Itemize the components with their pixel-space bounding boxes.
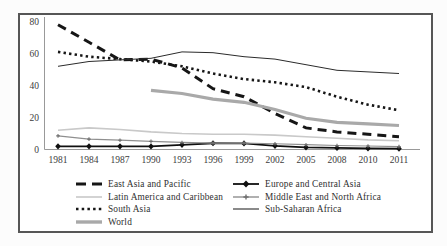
legend-label: East Asia and Pacific xyxy=(108,179,191,189)
legend-item-south-asia: South Asia xyxy=(75,204,232,214)
series-line-world xyxy=(151,90,399,125)
legend-label: Latin America and Caribbean xyxy=(108,192,223,202)
legend-label: Sub-Saharan Africa xyxy=(265,204,342,214)
series-marker-europe-and-central-asia xyxy=(117,143,123,149)
series-marker-middle-east-and-north-africa xyxy=(149,140,153,144)
diamond-marker-line-sample-icon xyxy=(232,179,260,189)
light-gray-line-sample-icon xyxy=(75,192,103,202)
legend-label: South Asia xyxy=(108,204,151,214)
thick-gray-line-sample-icon xyxy=(75,217,103,227)
series-marker-europe-and-central-asia xyxy=(86,143,92,149)
series-line-east-asia-and-pacific xyxy=(58,25,399,137)
x-tick-label: 1984 xyxy=(80,155,99,165)
x-tick-label: 2011 xyxy=(390,155,409,165)
series-line-middle-east-and-north-africa xyxy=(58,136,399,147)
dashed-line-sample-icon xyxy=(75,179,103,189)
x-tick-label: 1981 xyxy=(49,155,68,165)
x-tick-label: 1999 xyxy=(235,155,254,165)
series-line-latin-america-and-caribbean xyxy=(58,128,399,141)
plus-marker-line-sample-icon xyxy=(232,192,260,202)
legend-item-east-asia-and-pacific: East Asia and Pacific xyxy=(75,179,232,189)
x-tick-label: 2010 xyxy=(359,155,378,165)
y-tick-label: 80 xyxy=(30,17,40,27)
legend-label: World xyxy=(108,217,132,227)
y-tick-label: 40 xyxy=(30,81,40,91)
dotted-line-sample-icon xyxy=(75,204,103,214)
y-tick-label: 0 xyxy=(34,145,39,155)
x-tick-label: 1990 xyxy=(142,155,161,165)
x-tick-label: 2002 xyxy=(266,155,285,165)
series-marker-middle-east-and-north-africa xyxy=(87,137,91,141)
legend-item-latin-america-and-caribbean: Latin America and Caribbean xyxy=(75,192,232,202)
series-marker-europe-and-central-asia xyxy=(148,143,154,149)
x-tick-label: 2008 xyxy=(328,155,347,165)
legend-item-world: World xyxy=(75,217,232,227)
legend-label: Middle East and North Africa xyxy=(265,192,381,202)
y-tick-label: 60 xyxy=(30,49,40,59)
x-tick-label: 1996 xyxy=(204,155,223,165)
x-tick-label: 1987 xyxy=(111,155,130,165)
chart-legend: East Asia and Pacific Europe and Central… xyxy=(75,178,415,228)
thin-black-line-sample-icon xyxy=(232,204,260,214)
series-marker-europe-and-central-asia xyxy=(55,143,61,149)
series-line-sub-saharan-africa xyxy=(58,52,399,74)
y-tick-label: 20 xyxy=(30,113,40,123)
series-marker-middle-east-and-north-africa xyxy=(118,138,122,142)
legend-label: Europe and Central Asia xyxy=(265,179,361,189)
x-tick-label: 2005 xyxy=(297,155,316,165)
legend-item-europe-and-central-asia: Europe and Central Asia xyxy=(232,179,412,189)
legend-item-sub-saharan-africa: Sub-Saharan Africa xyxy=(232,204,412,214)
series-marker-middle-east-and-north-africa xyxy=(56,134,60,138)
x-tick-label: 1993 xyxy=(173,155,192,165)
legend-item-middle-east-and-north-africa: Middle East and North Africa xyxy=(232,192,412,202)
